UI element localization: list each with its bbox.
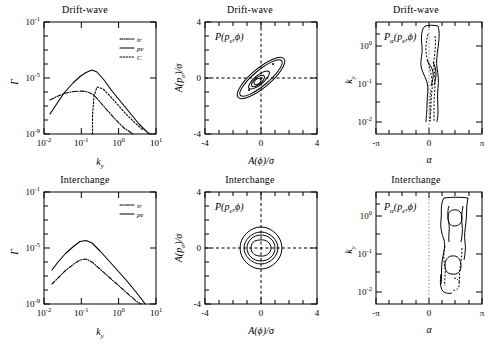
y-axis-label: A(pe)/σ bbox=[173, 233, 187, 264]
svg-text:0: 0 bbox=[427, 138, 432, 148]
svg-text:0: 0 bbox=[259, 138, 264, 148]
svg-text:10-2: 10-2 bbox=[37, 136, 51, 148]
figure-canvas: Drift-wave 10-1 10-5 bbox=[0, 0, 500, 344]
y-tick-labels: 100 10-1 10-2 bbox=[358, 39, 372, 127]
svg-text:100: 100 bbox=[360, 209, 372, 221]
y-tick-labels: 10-1 10-5 10-9 bbox=[26, 15, 40, 139]
legend-item-tr: tr bbox=[120, 36, 142, 44]
panel-title: Interchange bbox=[332, 174, 500, 185]
panel-annotation: Pα(pe,ϕ) bbox=[383, 201, 417, 215]
panel-title: Interchange bbox=[0, 174, 170, 185]
legend-label-tr: tr bbox=[137, 202, 142, 210]
svg-text:-π: -π bbox=[372, 308, 380, 318]
x-axis-label: A(ϕ)/σ bbox=[247, 325, 275, 337]
legend: tr pe C bbox=[120, 36, 144, 62]
x-tick-labels: -4 0 4 bbox=[201, 138, 320, 148]
x-axis-label: α bbox=[426, 324, 432, 335]
x-tick-labels: -π 0 π bbox=[372, 138, 485, 148]
svg-text:0: 0 bbox=[197, 73, 202, 83]
svg-text:10-2: 10-2 bbox=[358, 285, 372, 297]
svg-text:10-5: 10-5 bbox=[26, 71, 40, 83]
x-axis-label: α bbox=[426, 154, 432, 165]
legend-item-pe: pe bbox=[120, 45, 144, 53]
legend-item-pe: pe bbox=[120, 211, 144, 219]
svg-text:10-1: 10-1 bbox=[26, 15, 40, 27]
svg-text:0: 0 bbox=[259, 308, 264, 318]
panel-title: Interchange bbox=[165, 174, 335, 185]
svg-text:10-1: 10-1 bbox=[26, 185, 40, 197]
legend-label-C: C bbox=[137, 54, 142, 62]
svg-text:10-1: 10-1 bbox=[358, 77, 372, 89]
svg-text:101: 101 bbox=[150, 136, 162, 148]
svg-text:10-1: 10-1 bbox=[74, 306, 88, 318]
x-tick-labels: -4 0 4 bbox=[201, 308, 320, 318]
legend: tr pe bbox=[120, 202, 144, 219]
panel-drift-wave-alpha-pdf: Drift-wave bbox=[332, 4, 500, 170]
svg-text:10-5: 10-5 bbox=[26, 241, 40, 253]
panel-interchange-alpha-pdf: Interchange bbox=[332, 174, 500, 340]
svg-text:100: 100 bbox=[112, 306, 124, 318]
y-tick-labels: 10-1 10-5 10-9 bbox=[26, 185, 40, 309]
svg-text:100: 100 bbox=[112, 136, 124, 148]
x-tick-labels: -π 0 π bbox=[372, 308, 485, 318]
y-axis-label: A(pe)/σ bbox=[173, 63, 187, 94]
panel-title: Drift-wave bbox=[0, 4, 170, 15]
svg-text:-4: -4 bbox=[201, 138, 209, 148]
x-axis-label: A(ϕ)/σ bbox=[247, 155, 275, 167]
panel-drift-wave-flux: Drift-wave 10-1 10-5 bbox=[0, 4, 170, 170]
y-tick-labels: 100 10-1 10-2 bbox=[358, 209, 372, 297]
y-axis-label: Γ bbox=[9, 249, 20, 256]
svg-text:10-2: 10-2 bbox=[37, 306, 51, 318]
y-tick-labels: 4 0 -4 bbox=[194, 17, 202, 139]
x-tick-labels: 10-2 10-1 100 101 bbox=[37, 136, 162, 148]
panel-drift-wave-joint-pdf: Drift-wave bbox=[165, 4, 335, 170]
x-axis-label: ky bbox=[96, 326, 104, 340]
contour-band bbox=[421, 25, 439, 122]
x-tick-labels: 10-2 10-1 100 101 bbox=[37, 306, 162, 318]
svg-text:101: 101 bbox=[150, 306, 162, 318]
panel-interchange-joint-pdf: Interchange bbox=[165, 174, 335, 340]
svg-text:10-1: 10-1 bbox=[358, 247, 372, 259]
series-tr bbox=[50, 91, 133, 134]
svg-text:4: 4 bbox=[197, 187, 202, 197]
legend-label-tr: tr bbox=[137, 36, 142, 44]
svg-text:100: 100 bbox=[360, 39, 372, 51]
panel-annotation: Pα(pe,ϕ) bbox=[383, 31, 417, 45]
y-axis-label: ky bbox=[343, 75, 357, 83]
contour-band bbox=[440, 197, 468, 293]
panel-interchange-flux: Interchange 10-1 10-5 10-9 bbox=[0, 174, 170, 340]
svg-text:π: π bbox=[480, 308, 485, 318]
series-C bbox=[93, 87, 144, 134]
legend-label-pe: pe bbox=[136, 45, 144, 53]
svg-text:π: π bbox=[480, 138, 485, 148]
x-axis-label: ky bbox=[96, 156, 104, 170]
y-axis-label: Γ bbox=[9, 79, 20, 86]
svg-text:4: 4 bbox=[315, 308, 320, 318]
svg-text:-4: -4 bbox=[201, 308, 209, 318]
svg-text:10-2: 10-2 bbox=[358, 115, 372, 127]
svg-text:0: 0 bbox=[197, 243, 202, 253]
svg-text:4: 4 bbox=[315, 138, 320, 148]
panel-annotation: P(pe,ϕ) bbox=[214, 31, 244, 45]
y-axis-label: ky bbox=[343, 245, 357, 253]
panel-annotation: P(pe,ϕ) bbox=[214, 201, 244, 215]
legend-item-tr: tr bbox=[120, 202, 142, 210]
legend-item-C: C bbox=[120, 54, 142, 62]
svg-text:4: 4 bbox=[197, 17, 202, 27]
svg-text:10-1: 10-1 bbox=[74, 136, 88, 148]
svg-text:0: 0 bbox=[427, 308, 432, 318]
panel-title: Drift-wave bbox=[165, 4, 335, 15]
panel-title: Drift-wave bbox=[332, 4, 500, 15]
svg-text:-π: -π bbox=[372, 138, 380, 148]
legend-label-pe: pe bbox=[136, 211, 144, 219]
y-tick-labels: 4 0 -4 bbox=[194, 187, 202, 309]
series-pe bbox=[52, 241, 145, 305]
